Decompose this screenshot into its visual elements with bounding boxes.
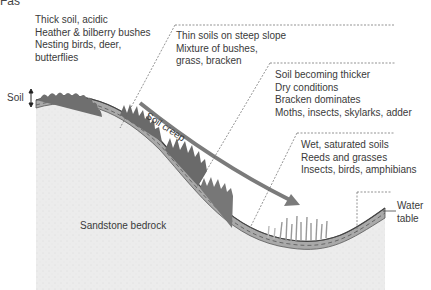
soil-thickness-indicator <box>29 89 33 107</box>
zone-line: Reeds and grasses <box>301 152 417 165</box>
zone-line: Heather & bilberry bushes <box>35 27 151 40</box>
hilltop-zone-label: Thick soil, acidic Heather & bilberry bu… <box>35 14 151 64</box>
soil-label: Soil <box>7 92 24 105</box>
zone-line: grass, bracken <box>176 55 286 68</box>
steep-slope-zone-label: Thin soils on steep slope Mixture of bus… <box>176 30 286 68</box>
zone-line: Moths, insects, skylarks, adder <box>275 107 412 120</box>
zone-line: Insects, birds, amphibians <box>301 164 417 177</box>
zone-line: Wet, saturated soils <box>301 139 417 152</box>
zone-line: Thin soils on steep slope <box>176 30 286 43</box>
bedrock-label: Sandstone bedrock <box>80 220 166 233</box>
zone-line: Soil becoming thicker <box>275 69 412 82</box>
water-table-label: Water table <box>397 200 423 225</box>
lower-slope-zone-label: Soil becoming thicker Dry conditions Bra… <box>275 69 412 119</box>
valley-bottom-zone-label: Wet, saturated soils Reeds and grasses I… <box>301 139 417 177</box>
zone-line: Nesting birds, deer, <box>35 39 151 52</box>
water-table-line1: Water <box>397 200 423 213</box>
zone-line: Dry conditions <box>275 82 412 95</box>
soil-creep-diagram: Fas <box>0 0 431 290</box>
zone-line: Bracken dominates <box>275 94 412 107</box>
zone-line: butterflies <box>35 52 151 65</box>
water-table-line2: table <box>397 213 423 226</box>
zone-line: Mixture of bushes, <box>176 43 286 56</box>
zone-line: Thick soil, acidic <box>35 14 151 27</box>
